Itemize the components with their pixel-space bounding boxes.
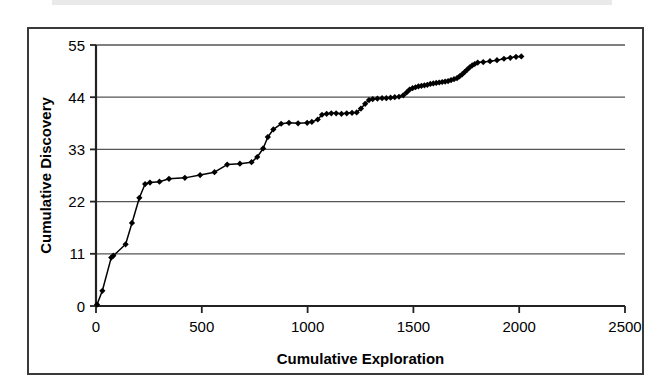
data-point-15 (237, 161, 243, 167)
x-axis-ticks: 05001000150020002500 (92, 306, 642, 335)
x-tick-label-1000: 1000 (291, 318, 324, 335)
data-point-32 (344, 110, 350, 116)
y-axis-title: Cumulative Discovery (37, 96, 54, 253)
data-point-5 (129, 220, 135, 226)
data-point-77 (513, 54, 519, 60)
figure-container: 0112233445505001000150020002500Cumulativ… (0, 0, 671, 392)
data-point-73 (487, 58, 493, 64)
data-point-31 (338, 111, 344, 117)
data-point-78 (518, 53, 524, 59)
y-tick-label-0: 0 (77, 298, 85, 315)
x-axis-title: Cumulative Exploration (277, 350, 445, 367)
data-point-74 (494, 57, 500, 63)
data-point-25 (309, 119, 315, 125)
gridlines (96, 45, 625, 306)
y-tick-label-22: 22 (68, 193, 85, 210)
data-point-7 (142, 181, 148, 187)
data-point-76 (507, 55, 513, 61)
data-point-1 (99, 288, 105, 294)
x-tick-label-2000: 2000 (503, 318, 536, 335)
x-tick-label-0: 0 (92, 318, 100, 335)
data-point-75 (501, 56, 507, 62)
series-0 (94, 53, 524, 307)
data-point-30 (333, 110, 339, 116)
data-point-6 (136, 195, 142, 201)
x-tick-label-500: 500 (189, 318, 214, 335)
data-point-72 (480, 59, 486, 65)
x-tick-label-2500: 2500 (608, 318, 641, 335)
data-point-23 (295, 120, 301, 126)
y-tick-label-44: 44 (68, 89, 85, 106)
chart-frame: 0112233445505001000150020002500Cumulativ… (27, 27, 644, 375)
scan-artifact-band (52, 0, 612, 5)
data-point-24 (304, 120, 310, 126)
y-tick-label-33: 33 (68, 141, 85, 158)
x-tick-label-1500: 1500 (397, 318, 430, 335)
y-axis-ticks: 01122334455 (68, 37, 96, 315)
data-point-12 (197, 172, 203, 178)
y-tick-label-55: 55 (68, 37, 85, 54)
data-point-8 (147, 180, 153, 186)
data-point-9 (156, 179, 162, 185)
data-point-10 (166, 176, 172, 182)
y-tick-label-11: 11 (69, 245, 85, 262)
data-point-11 (182, 175, 188, 181)
line-chart: 0112233445505001000150020002500Cumulativ… (29, 29, 642, 373)
data-point-22 (286, 120, 292, 126)
